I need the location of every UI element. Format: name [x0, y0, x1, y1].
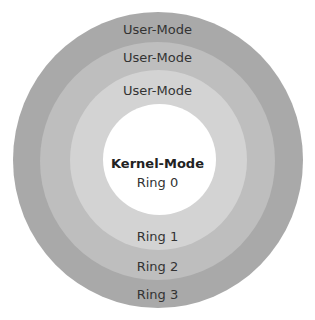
ring-2-mode-label: User-Mode: [0, 50, 315, 66]
ring-3-label: Ring 3: [0, 287, 315, 303]
ring-0-mode-label: Kernel-Mode: [0, 156, 315, 172]
ring-1-mode-label: User-Mode: [0, 83, 315, 99]
ring-1-label: Ring 1: [0, 229, 315, 245]
ring-0-label: Ring 0: [0, 175, 315, 191]
ring-3-mode-label: User-Mode: [0, 22, 315, 38]
ring-2-label: Ring 2: [0, 259, 315, 275]
